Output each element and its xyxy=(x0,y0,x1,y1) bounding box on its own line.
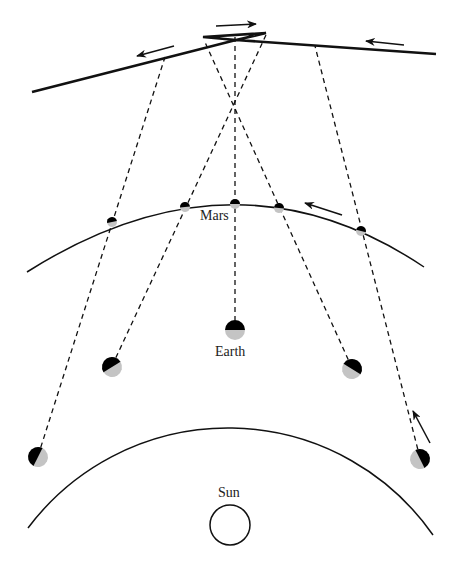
arrow-incoming-icon xyxy=(366,41,404,45)
arrow-mars-orbit-icon xyxy=(305,203,342,215)
sight-line-5 xyxy=(315,46,420,458)
mars-marker xyxy=(180,202,191,213)
retrograde-diagram: Mars Earth Sun xyxy=(0,0,456,563)
earth-marker xyxy=(25,444,52,471)
earth-marker xyxy=(407,446,434,473)
sight-line-1 xyxy=(38,57,165,456)
mars-label: Mars xyxy=(200,208,229,224)
mars-marker xyxy=(230,199,240,209)
sun-label: Sun xyxy=(218,485,240,501)
earth-marker xyxy=(225,320,245,340)
earth-markers xyxy=(25,320,434,472)
arrow-retrograde-icon xyxy=(216,24,256,26)
sun-icon xyxy=(210,505,250,545)
earth-label: Earth xyxy=(215,344,245,360)
diagram-canvas xyxy=(0,0,456,563)
earth-marker xyxy=(98,353,126,381)
arrow-apparent-left-icon xyxy=(137,46,174,56)
mars-marker xyxy=(355,225,367,237)
earth-marker xyxy=(338,355,366,383)
mars-marker xyxy=(274,203,285,214)
sight-line-2 xyxy=(112,35,266,366)
sight-lines xyxy=(38,35,420,458)
